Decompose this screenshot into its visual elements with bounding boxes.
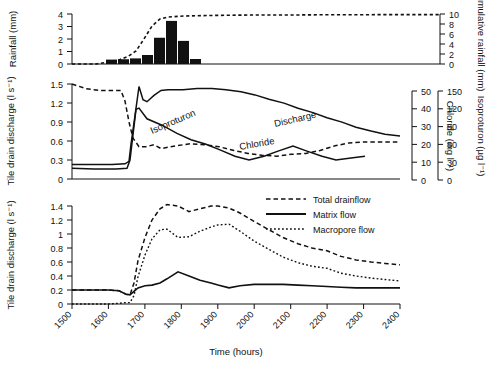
cumulative-rainfall-curve <box>72 15 440 64</box>
x-tick-1700: 1700 <box>125 309 146 330</box>
mid-tick-0p9: 0.9 <box>50 118 63 128</box>
rainfall-tick-2: 2 <box>58 35 63 45</box>
mid-y-axis-label-line1: Tile drain discharge (l s⁻¹) <box>5 76 16 185</box>
legend-label-macropore-flow: Macropore flow <box>313 225 375 235</box>
mid-tick-0p6: 0.6 <box>50 137 63 147</box>
rainfall-bars <box>106 21 201 64</box>
legend-label-total-drainflow: Total drainflow <box>313 195 371 205</box>
panel-discharge-chloride-isoproturon: 1.5 1.2 0.9 0.6 0.3 0 Tile drain dischar… <box>5 76 487 185</box>
cumrain-tick-8: 8 <box>449 20 454 30</box>
chloride-curve <box>72 84 400 156</box>
mid-left-tick-labels: 1.5 1.2 0.9 0.6 0.3 0 <box>50 80 63 185</box>
ipu-tick-120: 120 <box>447 104 462 114</box>
bot-tick-1: 1 <box>58 230 63 240</box>
chloride-tick-40: 40 <box>421 104 431 114</box>
panel-rainfall: 4 3 2 1 0 Rainfall (mm) 1 <box>7 0 487 91</box>
chloride-tick-20: 20 <box>421 140 431 150</box>
rainfall-bar <box>142 55 153 64</box>
ipu-tick-90: 90 <box>447 122 457 132</box>
chloride-right-axis <box>412 91 417 180</box>
rainfall-bar <box>190 59 201 64</box>
rainfall-tick-1: 1 <box>58 47 63 57</box>
rainfall-tick-4: 4 <box>58 10 63 20</box>
rainfall-bar <box>130 58 141 64</box>
bottom-y-axis-label: Tile drain discharge (l s⁻¹) <box>5 200 16 309</box>
rainfall-tick-0: 0 <box>58 60 63 70</box>
rainfall-bar <box>178 41 189 64</box>
legend-label-matrix-flow: Matrix flow <box>313 210 357 220</box>
discharge-curve <box>72 87 400 165</box>
cumrain-tick-4: 4 <box>449 40 454 50</box>
mid-tick-1p5: 1.5 <box>50 80 63 90</box>
mid-tick-0: 0 <box>58 175 63 185</box>
rainfall-left-axis <box>67 14 72 64</box>
cumrain-tick-2: 2 <box>449 50 454 60</box>
rainfall-bar <box>166 21 177 64</box>
multi-panel-hydrograph-figure: 4 3 2 1 0 Rainfall (mm) 1 <box>0 0 492 370</box>
bot-tick-1p4: 1.4 <box>50 202 63 212</box>
x-tick-2200: 2200 <box>307 309 328 330</box>
isoproturon-axis-label: Isoproturon (µg l⁻¹) <box>476 96 487 177</box>
rainfall-left-tick-labels: 4 3 2 1 0 <box>58 10 63 70</box>
x-tick-2000: 2000 <box>234 309 255 330</box>
bottom-left-tick-labels: 1.4 1.2 1 0.8 0.6 0.4 0.2 0 <box>50 202 63 310</box>
cumrain-tick-0: 0 <box>449 60 454 70</box>
discharge-annotation: Discharge <box>273 109 317 129</box>
panel-flow-partition: 1.4 1.2 1 0.8 0.6 0.4 0.2 0 Tile drain d… <box>5 195 401 358</box>
x-tick-1900: 1900 <box>198 309 219 330</box>
mid-tick-1p2: 1.2 <box>50 99 63 109</box>
x-tick-1500: 1500 <box>52 309 73 330</box>
ipu-tick-30: 30 <box>447 158 457 168</box>
x-tick-2100: 2100 <box>271 309 292 330</box>
cumrain-tick-10: 10 <box>449 10 459 20</box>
figure-root: 4 3 2 1 0 Rainfall (mm) 1 <box>0 0 492 370</box>
chloride-tick-0: 0 <box>421 176 426 186</box>
ipu-tick-150: 150 <box>447 87 462 97</box>
bot-tick-0p8: 0.8 <box>50 244 63 254</box>
chloride-annotation: Chloride <box>238 135 275 152</box>
x-tick-2400: 2400 <box>380 309 401 330</box>
rainfall-tick-3: 3 <box>58 22 63 32</box>
isoproturon-right-axis <box>438 91 443 180</box>
chloride-tick-30: 30 <box>421 122 431 132</box>
bottom-left-axis <box>67 206 72 304</box>
cumrain-tick-6: 6 <box>449 30 454 40</box>
legend: Total drainflow Matrix flow Macropore fl… <box>266 195 375 235</box>
bot-tick-0p6: 0.6 <box>50 258 63 268</box>
chloride-tick-50: 50 <box>421 87 431 97</box>
bot-tick-0: 0 <box>58 300 63 310</box>
cumulative-rainfall-right-axis <box>440 14 445 64</box>
matrix-flow-curve <box>72 272 400 295</box>
cumulative-rainfall-y-axis-label: Cumulative rainfall (mm) <box>476 0 487 91</box>
x-tick-1800: 1800 <box>161 309 182 330</box>
mid-tick-0p3: 0.3 <box>50 156 63 166</box>
bot-tick-1p2: 1.2 <box>50 216 63 226</box>
ipu-tick-0: 0 <box>447 176 452 186</box>
bot-tick-0p2: 0.2 <box>50 286 63 296</box>
chloride-tick-10: 10 <box>421 158 431 168</box>
x-tick-2300: 2300 <box>344 309 365 330</box>
bot-tick-0p4: 0.4 <box>50 272 63 282</box>
chloride-tick-labels: 50 40 30 20 10 0 <box>421 87 431 186</box>
mid-y-axis-label-text: Tile drain discharge (l s⁻¹) <box>5 76 16 185</box>
x-tick-labels: 1500 1600 1700 1800 1900 2000 2100 2200 … <box>52 309 401 330</box>
isoproturon-curve <box>72 108 365 169</box>
ipu-tick-50: 50 <box>447 140 457 150</box>
mid-left-axis <box>67 84 72 179</box>
rainfall-bar <box>154 38 165 64</box>
cumulative-rainfall-tick-labels: 10 8 6 4 2 0 <box>449 10 459 70</box>
x-axis-label: Time (hours) <box>209 346 263 357</box>
x-tick-1600: 1600 <box>89 309 110 330</box>
rainfall-y-axis-label: Rainfall (mm) <box>7 11 18 67</box>
bottom-x-axis <box>72 304 400 309</box>
